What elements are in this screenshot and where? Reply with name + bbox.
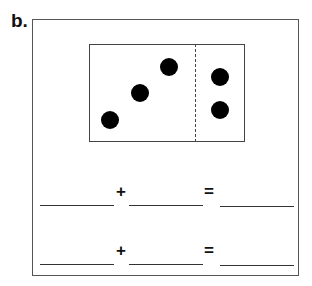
problem-label: b. [11,10,28,32]
addend1-blank[interactable] [40,205,114,206]
dot [160,58,178,76]
plus-sign: + [116,183,126,200]
addend2-blank[interactable] [129,205,203,206]
addend1-blank[interactable] [40,264,114,265]
equals-sign: = [204,183,214,200]
dot [101,111,119,129]
addend2-blank[interactable] [129,264,203,265]
equals-sign: = [204,242,214,259]
dot [211,68,229,86]
dot [211,101,229,119]
plus-sign: + [116,242,126,259]
dashed-divider [195,44,196,142]
dot [131,84,149,102]
sum-blank[interactable] [220,206,294,207]
sum-blank[interactable] [220,265,294,266]
